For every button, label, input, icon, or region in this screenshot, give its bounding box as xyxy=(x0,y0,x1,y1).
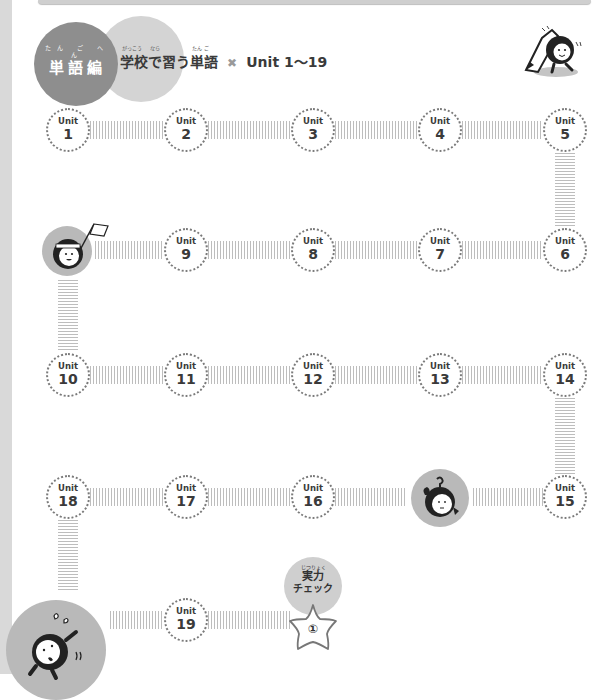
unit-5-node[interactable]: Unit5 xyxy=(543,108,587,152)
separator-icon: ✖ xyxy=(227,56,237,70)
unit-4-node[interactable]: Unit4 xyxy=(418,108,462,152)
path-link xyxy=(90,121,164,139)
unit-6-node[interactable]: Unit6 xyxy=(543,228,587,272)
unit-18-node[interactable]: Unit18 xyxy=(46,475,90,519)
unit-8-node[interactable]: Unit8 xyxy=(291,228,335,272)
path-link xyxy=(473,488,543,506)
path-link xyxy=(335,366,418,384)
path-link xyxy=(208,366,291,384)
path-link xyxy=(58,520,78,592)
path-link xyxy=(208,488,291,506)
path-link xyxy=(208,121,291,139)
page-title: がっこう なら たん ご 学校で習う単語 ✖ Unit 1～19 xyxy=(120,46,327,72)
unit-2-node[interactable]: Unit2 xyxy=(164,108,208,152)
unit-19-node[interactable]: Unit19 xyxy=(164,598,208,642)
unit-7-node[interactable]: Unit7 xyxy=(418,228,462,272)
skill-check-title: 実力 xyxy=(284,570,342,583)
title-ruby-1: がっこう xyxy=(122,44,142,51)
title-ruby-2: なら xyxy=(150,44,160,51)
path-link xyxy=(335,241,418,259)
path-link xyxy=(335,488,407,506)
star-number: ① xyxy=(287,622,339,636)
path-link xyxy=(110,611,164,629)
running-mascot-icon xyxy=(6,600,106,700)
flag-mascot-icon xyxy=(42,226,92,276)
path-link xyxy=(555,153,575,227)
category-label: たん ご へん 単語編 xyxy=(40,44,114,77)
path-link xyxy=(462,366,543,384)
unit-12-node[interactable]: Unit12 xyxy=(291,353,335,397)
category-text: 単語編 xyxy=(49,59,106,77)
pencil-mascot-icon xyxy=(514,24,584,80)
unit-1-node[interactable]: Unit1 xyxy=(46,108,90,152)
unit-3-node[interactable]: Unit3 xyxy=(291,108,335,152)
path-link xyxy=(90,366,164,384)
worried-mascot-icon xyxy=(411,469,469,527)
title-ruby-3: たん ご xyxy=(192,44,209,51)
path-link xyxy=(555,398,575,474)
path-link xyxy=(90,488,164,506)
path-link xyxy=(462,241,543,259)
unit-11-node[interactable]: Unit11 xyxy=(164,353,208,397)
path-link xyxy=(462,121,543,139)
unit-10-node[interactable]: Unit10 xyxy=(46,353,90,397)
page-edge-strip xyxy=(0,0,12,674)
path-link xyxy=(208,611,292,629)
top-border xyxy=(38,0,591,4)
path-link xyxy=(208,241,291,259)
unit-16-node[interactable]: Unit16 xyxy=(291,475,335,519)
path-link xyxy=(335,121,418,139)
unit-15-node[interactable]: Unit15 xyxy=(543,475,587,519)
path-link xyxy=(58,280,78,352)
skill-check-subtitle: チェック xyxy=(284,583,342,595)
unit-range: Unit 1～19 xyxy=(246,46,327,72)
star-icon[interactable]: ① xyxy=(287,602,339,652)
category-ruby: たん ご へん xyxy=(40,44,114,58)
unit-13-node[interactable]: Unit13 xyxy=(418,353,462,397)
unit-14-node[interactable]: Unit14 xyxy=(543,353,587,397)
unit-17-node[interactable]: Unit17 xyxy=(164,475,208,519)
unit-9-node[interactable]: Unit9 xyxy=(164,228,208,272)
